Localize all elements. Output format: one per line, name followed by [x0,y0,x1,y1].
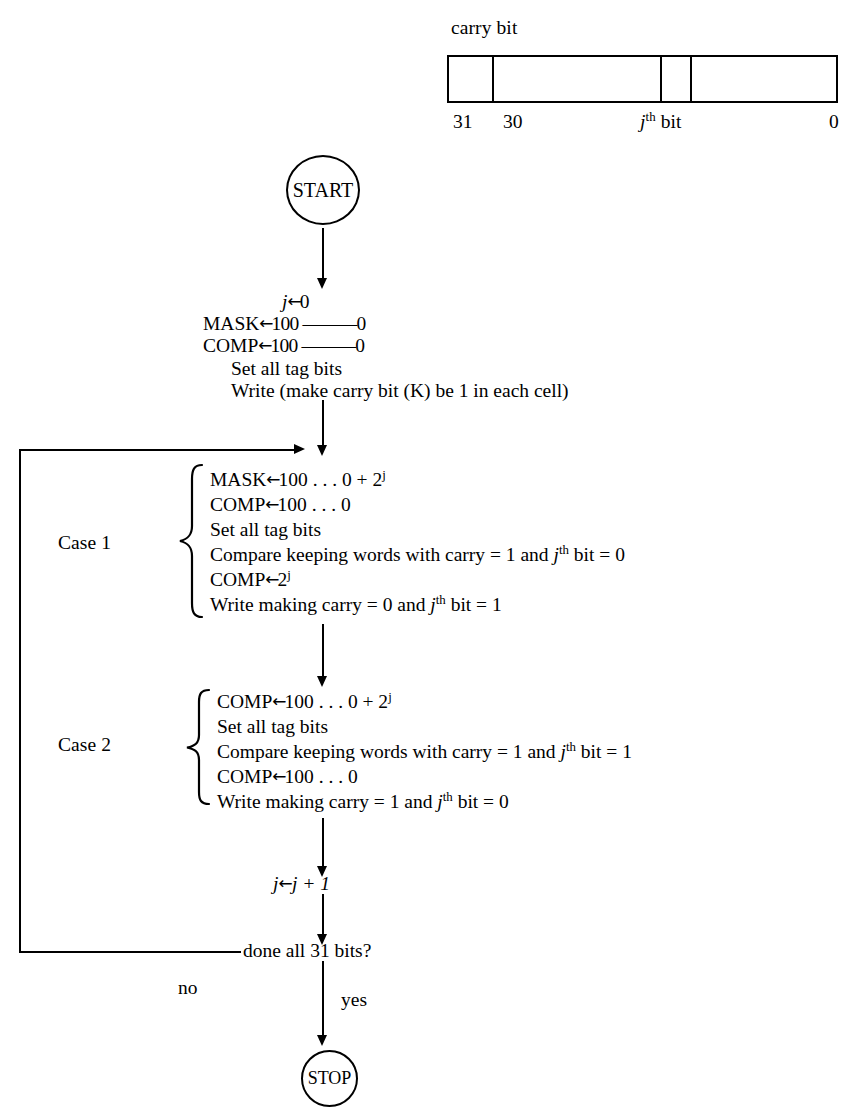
case2-line-4: COMP←100 . . . 0 [217,767,358,787]
case1-line2-rhs: 100 . . . 0 [278,494,351,515]
case1-label: Case 1 [58,533,111,553]
word-divider-after-jth [690,57,692,101]
case1-brace [176,462,206,620]
case1-line5-lhs: COMP [210,569,265,590]
bit-label-jth-suffix: bit [656,111,682,132]
arrowhead-loop-back [294,444,305,454]
case1-line-4: Compare keeping words with carry = 1 and… [210,545,625,565]
case2-line1-lhs: COMP [217,691,272,712]
case1-line1-rhs: 100 . . . 0 + 2 [279,469,383,490]
increment-line: j←j + 1 [273,874,330,894]
init-j-value: 0 [300,291,310,312]
init-mask-label: MASK [203,313,259,334]
bit-label-31: 31 [453,112,473,132]
connector-case2-to-increment [322,818,324,868]
start-node-label: START [293,179,354,202]
decision-yes-label: yes [341,990,367,1010]
connector-start-to-init [322,228,324,280]
arrowhead-start-to-init [317,278,327,289]
decision-question: done all 31 bits? [243,941,371,961]
increment-arrow: ← [278,873,292,893]
case2-line-3: Compare keeping words with carry = 1 and… [217,742,632,762]
case1-line1-arrow: ← [266,469,278,489]
stop-node-label: STOP [308,1068,352,1089]
carry-bit-label: carry bit [451,18,517,38]
word-divider-31-30 [492,57,494,101]
stop-node: STOP [301,1050,358,1107]
case1-line6-pre: Write making carry = 0 and [210,594,430,615]
word-format-box [447,55,838,103]
case1-line-1: MASK←100 . . . 0 + 2j [210,470,386,490]
init-line-write: Write (make carry bit (K) be 1 in each c… [231,381,569,401]
init-line-comp: COMP←100 ––––––0 [203,336,364,356]
case2-line5-pre: Write making carry = 1 and [217,791,437,812]
case2-line4-rhs: 100 . . . 0 [285,766,358,787]
loop-back-bottom-horizontal [19,951,241,953]
case2-line-2: Set all tag bits [217,717,328,737]
case1-line4-sup: th [559,543,569,557]
case2-label: Case 2 [58,735,111,755]
case1-line2-lhs: COMP [210,494,265,515]
case2-line1-rhs: 100 . . . 0 + 2 [285,691,389,712]
case2-line5-sup: th [443,790,453,804]
case2-line3-post: bit = 1 [576,741,632,762]
loop-back-vertical [19,449,21,952]
case2-line-1: COMP←100 . . . 0 + 2j [217,692,392,712]
case1-line2-arrow: ← [265,494,277,514]
case2-line3-sup: th [566,740,576,754]
decision-no-label: no [178,978,198,998]
case2-line1-sup: j [388,690,392,704]
case2-line3-pre: Compare keeping words with carry = 1 and [217,741,561,762]
init-comp-value: 100 ––––––0 [271,335,365,356]
case1-line5-arrow: ← [265,569,277,589]
case1-line4-pre: Compare keeping words with carry = 1 and [210,544,554,565]
arrowhead-decision-to-stop [317,1035,327,1046]
case2-line4-lhs: COMP [217,766,272,787]
init-line-set-tags: Set all tag bits [231,359,342,379]
arrowhead-init-to-case1 [317,445,327,456]
case1-line5-sup: j [287,568,291,582]
case2-line-5: Write making carry = 1 and jth bit = 0 [217,792,509,812]
init-mask-value: 100 ––––––0 [272,313,366,334]
case2-brace [183,687,213,807]
case2-line5-post: bit = 0 [453,791,509,812]
connector-case1-to-case2 [322,624,324,678]
case1-line1-sup: j [382,468,386,482]
init-line-j-assign: j←0 [282,292,309,312]
case1-line6-post: bit = 1 [446,594,502,615]
bit-label-jth: jth bit [640,112,682,132]
arrowhead-case1-to-case2 [317,676,327,687]
connector-init-to-case1 [322,400,324,447]
flowchart-page: carry bit 31 30 jth bit 0 START j←0 MASK… [0,0,865,1119]
case2-line4-arrow: ← [272,766,284,786]
bit-label-jth-sup: th [646,110,656,124]
connector-increment-to-decision [322,894,324,936]
case2-line1-arrow: ← [272,691,284,711]
case1-line-2: COMP←100 . . . 0 [210,495,351,515]
start-node: START [286,155,360,225]
init-comp-arrow: ← [258,335,270,355]
increment-rhs: j + 1 [292,873,330,894]
init-mask-arrow: ← [259,313,271,333]
case1-line-5: COMP←2j [210,570,291,590]
bit-label-0: 0 [829,112,839,132]
init-j-arrow: ← [287,291,299,311]
loop-back-top-horizontal [19,449,297,451]
bit-label-30: 30 [503,112,523,132]
word-divider-before-jth [660,57,662,101]
init-comp-label: COMP [203,335,258,356]
init-line-mask: MASK←100 ––––––0 [203,314,365,334]
case1-line1-lhs: MASK [210,469,266,490]
case1-line4-post: bit = 0 [569,544,625,565]
case1-line6-sup: th [436,593,446,607]
case1-line-3: Set all tag bits [210,520,321,540]
connector-decision-to-stop [322,961,324,1037]
case1-line-6: Write making carry = 0 and jth bit = 1 [210,595,502,615]
case1-line5-rhs: 2 [278,569,288,590]
